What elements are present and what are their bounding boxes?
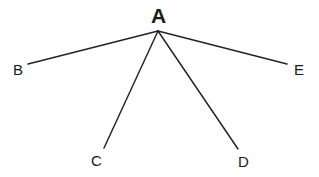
edge-a-b (28, 31, 158, 64)
edge-a-c (104, 31, 158, 148)
node-label-d: D (238, 154, 249, 169)
node-label-c: C (91, 153, 102, 168)
node-label-e: E (294, 62, 304, 77)
node-label-a: A (151, 5, 166, 26)
node-label-b: B (13, 62, 23, 77)
diagram-canvas: A B C D E (0, 0, 319, 177)
